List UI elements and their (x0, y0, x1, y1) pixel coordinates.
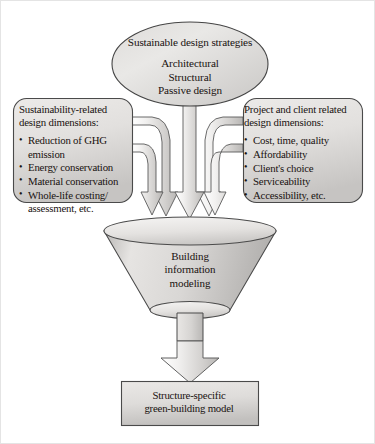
output-box-line2: green-building model (128, 402, 250, 415)
left-box-content: Sustainability-related design dimensions… (19, 103, 137, 215)
list-item: Material conservation (19, 175, 137, 188)
output-box-line1: Structure-specific (128, 389, 250, 402)
list-item: Client's choice (244, 162, 362, 175)
funnel-label-line1: Building (130, 250, 250, 263)
ellipse-line-1: Architectural (112, 57, 268, 71)
funnel-label: Building information modeling (130, 250, 250, 290)
ellipse-line-2: Structural (112, 71, 268, 85)
list-item: Cost, time, quality (244, 134, 362, 147)
ellipse-strategy-list: Architectural Structural Passive design (112, 57, 268, 98)
funnel-label-line2: information (130, 263, 250, 276)
ellipse-line-3: Passive design (112, 84, 268, 98)
left-box-bullet-list: Reduction of GHG emission Energy conserv… (19, 134, 137, 215)
ellipse-heading: Sustainable design strategies (112, 36, 268, 50)
left-box-heading-line1: Sustainability-related (19, 103, 137, 116)
list-item: Energy conservation (19, 161, 137, 174)
arrow-center-down (175, 100, 204, 219)
arrow-funnel-to-output (161, 341, 219, 383)
right-box-heading-line1: Project and client related (244, 103, 362, 116)
list-item: Whole-life costing/ assessment, etc. (19, 189, 137, 215)
right-box-heading-line2: design dimensions: (244, 116, 362, 129)
left-box-heading-line2: design dimensions: (19, 116, 137, 129)
left-box-heading: Sustainability-related design dimensions… (19, 103, 137, 129)
list-item: Affordability (244, 148, 362, 161)
funnel-label-line3: modeling (130, 277, 250, 290)
diagram-canvas: Sustainable design strategies Architectu… (0, 0, 375, 444)
right-box-bullet-list: Cost, time, quality Affordability Client… (244, 134, 362, 202)
list-item: Accessibility, etc. (244, 189, 362, 202)
right-box-content: Project and client related design dimens… (244, 103, 362, 203)
right-box-heading: Project and client related design dimens… (244, 103, 362, 129)
list-item: Serviceability (244, 175, 362, 188)
list-item: Reduction of GHG emission (19, 134, 137, 160)
output-box-label: Structure-specific green-building model (128, 389, 250, 415)
